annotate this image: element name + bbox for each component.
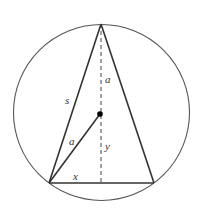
center-point	[97, 111, 103, 117]
label-s: s	[65, 94, 69, 106]
right-side	[101, 24, 154, 183]
left-side-s	[49, 24, 101, 183]
label-a-upper: a	[105, 73, 111, 85]
inscribed-triangle-diagram: a s a y x	[0, 0, 202, 211]
label-y: y	[104, 140, 110, 152]
label-a-radius: a	[69, 135, 75, 147]
label-x: x	[72, 170, 78, 182]
